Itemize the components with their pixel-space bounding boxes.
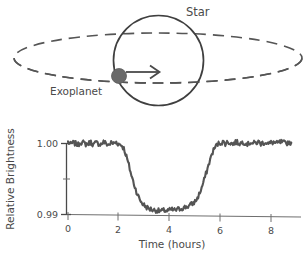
y-axis-title: Relative Brightness [4,128,16,230]
light-curve-series [68,139,291,214]
x-tick-label-4: 8 [268,225,274,236]
light-curve-path [68,140,291,213]
x-axis-title: Time (hours) [138,238,206,250]
x-tick-label-3: 6 [217,225,223,236]
exoplanet-label: Exoplanet [50,85,102,97]
y-tick-label-1: 1.00 [37,138,58,149]
star-circle [114,16,204,106]
x-tick-label-2: 4 [166,224,172,235]
x-axis-spine [67,215,302,218]
star-label: Star [186,5,210,19]
x-axis-ticks [68,212,271,222]
x-tick-label-1: 2 [115,224,121,235]
transit-diagram: Star Exoplanet [0,0,308,125]
y-tick-label-0: 0.99 [37,209,58,220]
exoplanet-dot [112,69,127,84]
figure-root: Star Exoplanet 1.00 0.99 0 2 4 6 8 [0,0,308,253]
x-tick-label-0: 0 [65,223,71,234]
light-curve-chart: 1.00 0.99 0 2 4 6 8 Time (hours) Relativ… [0,125,308,253]
